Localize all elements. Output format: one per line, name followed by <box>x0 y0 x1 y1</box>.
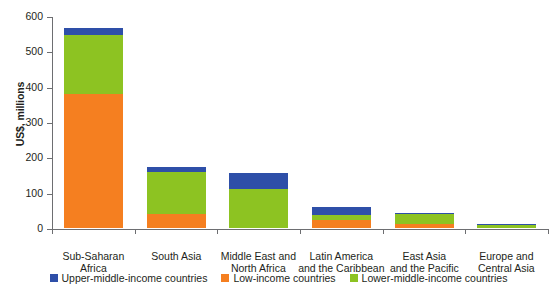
bar-segment[interactable] <box>64 35 123 94</box>
bar-stack[interactable] <box>312 207 371 228</box>
legend-item[interactable]: Upper-middle-income countries <box>50 272 208 284</box>
bar-segment[interactable] <box>312 220 371 228</box>
legend-label: Lower-middle-income countries <box>362 272 508 284</box>
y-axis-tick: 500 <box>47 52 52 53</box>
bar-stack[interactable] <box>229 173 288 228</box>
x-axis-tick <box>300 229 301 234</box>
y-axis-tick: 400 <box>47 88 52 89</box>
legend-item[interactable]: Low-income countries <box>221 272 335 284</box>
y-axis-title: US$, millions <box>14 54 26 174</box>
bar-segment[interactable] <box>477 225 536 228</box>
bar-stack[interactable] <box>147 167 206 228</box>
y-axis-tick-label: 300 <box>25 116 43 128</box>
bar-segment[interactable] <box>147 214 206 228</box>
y-axis-line <box>52 17 53 230</box>
stacked-bar-chart: US$, millions 0100200300400500600 Sub-Sa… <box>0 0 557 298</box>
bar-segment[interactable] <box>147 172 206 214</box>
legend-swatch-icon <box>50 274 58 282</box>
x-axis-tick <box>52 229 53 234</box>
bar-segment[interactable] <box>229 173 288 189</box>
legend-item[interactable]: Lower-middle-income countries <box>350 272 508 284</box>
x-axis-tick <box>465 229 466 234</box>
legend-swatch-icon <box>350 274 358 282</box>
y-axis-tick: 300 <box>47 123 52 124</box>
y-axis-tick: 200 <box>47 158 52 159</box>
y-axis-tick: 100 <box>47 194 52 195</box>
chart-legend: Upper-middle-income countriesLow-income … <box>0 272 557 284</box>
y-axis-tick: 600 <box>47 17 52 18</box>
y-axis-tick-label: 400 <box>25 81 43 93</box>
y-axis-tick-label: 200 <box>25 151 43 163</box>
y-axis-tick-label: 600 <box>25 10 43 22</box>
bar-segment[interactable] <box>64 94 123 228</box>
legend-swatch-icon <box>221 274 229 282</box>
legend-label: Upper-middle-income countries <box>62 272 208 284</box>
bar-stack[interactable] <box>395 213 454 228</box>
y-axis-tick-label: 0 <box>37 222 43 234</box>
category-label-line: Europe and <box>458 250 555 262</box>
bar-stack[interactable] <box>64 28 123 228</box>
legend-label: Low-income countries <box>233 272 335 284</box>
x-axis-tick <box>548 229 549 234</box>
bar-segment[interactable] <box>64 28 123 35</box>
y-axis-tick-label: 500 <box>25 45 43 57</box>
y-axis-tick-label: 100 <box>25 187 43 199</box>
bar-segment[interactable] <box>395 214 454 224</box>
bar-segment[interactable] <box>229 189 288 228</box>
x-axis-tick <box>217 229 218 234</box>
x-axis-tick <box>135 229 136 234</box>
x-axis-category-label: Europe andCentral Asia <box>458 250 555 274</box>
plot-area: 0100200300400500600 Sub-SaharanAfricaSou… <box>52 17 548 229</box>
bar-segment[interactable] <box>395 224 454 228</box>
bar-stack[interactable] <box>477 224 536 228</box>
bar-segment[interactable] <box>312 207 371 215</box>
x-axis-tick <box>383 229 384 234</box>
